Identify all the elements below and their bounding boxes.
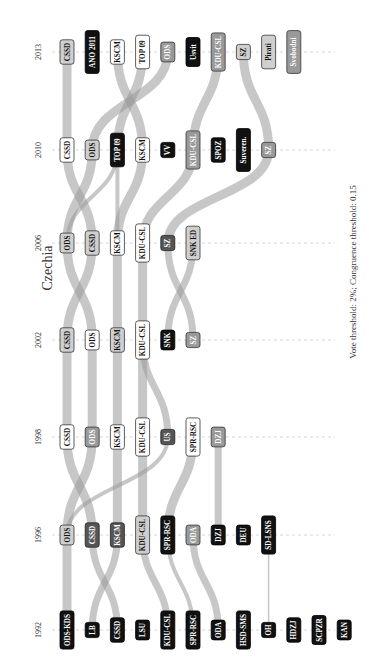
party-node-1992-hdzj: HDZJ	[287, 618, 301, 642]
svg-text:CSSD: CSSD	[64, 43, 72, 61]
party-node-2010-sz: SZ	[262, 142, 276, 157]
svg-text:KDU-CSL: KDU-CSL	[139, 421, 147, 454]
party-node-2006-kscm: KSCM	[110, 231, 124, 255]
svg-text:ODA: ODA	[215, 621, 223, 638]
party-node-1996-deu: DEU	[236, 525, 250, 545]
svg-text:KSCM: KSCM	[114, 329, 122, 351]
svg-text:KDU-CSL: KDU-CSL	[164, 614, 172, 647]
party-node-2006-ods: ODS	[60, 233, 74, 253]
year-label-2013: 2013	[34, 44, 43, 60]
party-node-2013-kscm: KSCM	[110, 40, 124, 64]
svg-text:SZ: SZ	[265, 145, 273, 154]
year-label-2010: 2010	[34, 142, 43, 158]
svg-text:ODS: ODS	[89, 143, 97, 158]
party-node-2010-spoz: SPOZ	[211, 138, 225, 162]
svg-text:KDU-CSL: KDU-CSL	[139, 227, 147, 260]
svg-text:SZ: SZ	[190, 335, 198, 344]
svg-text:2010: 2010	[34, 142, 43, 158]
year-label-2002: 2002	[34, 332, 43, 348]
svg-text:LSU: LSU	[139, 622, 147, 637]
party-node-2002-cssd: CSSD	[60, 328, 74, 352]
party-node-1992-oh: OH	[262, 622, 276, 637]
party-node-1998-dzj: DZJ	[211, 427, 225, 447]
party-node-1992-spr-rsc: SPR-RSC	[186, 611, 200, 649]
party-node-1998-kdu-csl: KDU-CSL	[136, 418, 150, 456]
svg-text:ODA: ODA	[190, 526, 198, 543]
party-node-2006-kdu-csl: KDU-CSL	[136, 224, 150, 262]
party-node-2010-ods: ODS	[85, 140, 99, 160]
party-node-2013-top-09: TOP 09	[136, 35, 150, 69]
svg-text:1996: 1996	[34, 527, 43, 543]
threshold-note: Vote threshold: 2%; Congruence threshold…	[348, 185, 358, 359]
party-node-2010-kscm: KSCM	[136, 138, 150, 162]
party-node-1992-cssd: CSSD	[110, 618, 124, 642]
svg-text:SZ: SZ	[240, 47, 248, 56]
svg-text:TOP 09: TOP 09	[139, 40, 147, 64]
party-node-2006-sz: SZ	[161, 235, 175, 250]
party-node-2013-cssd: CSSD	[60, 40, 74, 64]
party-node-2013-usvit: Usvit	[186, 38, 200, 67]
svg-text:SNK ED: SNK ED	[190, 230, 198, 257]
svg-text:KDU-CSL: KDU-CSL	[139, 519, 147, 552]
party-node-1992-scpzr: SCPZR	[312, 616, 326, 645]
svg-text:Svobodni: Svobodni	[290, 38, 298, 67]
svg-text:ODS-KDS: ODS-KDS	[64, 614, 72, 646]
svg-text:1998: 1998	[34, 429, 43, 445]
alluvial-chart: ODS-KDSLBCSSDLSUKDU-CSLSPR-RSCODAHSD-SMS…	[0, 0, 381, 662]
svg-text:ODS: ODS	[89, 430, 97, 445]
svg-text:CSSD: CSSD	[89, 526, 97, 544]
year-label-1992: 1992	[34, 622, 43, 638]
svg-text:SCPZR: SCPZR	[316, 617, 324, 641]
flow-2006-SZ-to-2010-SZ	[168, 150, 269, 243]
svg-text:SNK: SNK	[164, 332, 172, 347]
svg-text:ANO 2011: ANO 2011	[89, 36, 97, 68]
party-node-1992-oda: ODA	[211, 620, 225, 640]
party-node-1998-spr-rsc: SPR-RSC	[186, 418, 200, 456]
party-node-2002-sz: SZ	[186, 332, 200, 347]
svg-text:LB: LB	[89, 625, 97, 635]
party-node-2013-svobodni: Svobodni	[287, 31, 301, 74]
party-node-2013-ano-2011: ANO 2011	[85, 31, 99, 74]
svg-text:HDZJ: HDZJ	[290, 620, 298, 640]
svg-text:Suveren.: Suveren.	[240, 136, 248, 163]
party-node-1998-us: US	[161, 429, 175, 444]
party-node-2013-ods: ODS	[161, 42, 175, 62]
party-node-1996-dzj: DZJ	[211, 525, 225, 545]
year-label-1998: 1998	[34, 429, 43, 445]
party-node-1992-kan: KAN	[337, 620, 351, 640]
svg-text:DZJ: DZJ	[215, 528, 223, 542]
party-node-2013-pirati: Pirati	[262, 35, 276, 69]
svg-text:DZJ: DZJ	[215, 430, 223, 444]
svg-text:ODS: ODS	[64, 528, 72, 543]
party-node-1996-ods: ODS	[60, 525, 74, 545]
svg-text:SPOZ: SPOZ	[215, 140, 223, 159]
svg-text:KDU-CSL: KDU-CSL	[215, 36, 223, 69]
party-node-1992-lb: LB	[85, 622, 99, 637]
svg-text:HSD-SMS: HSD-SMS	[240, 614, 248, 646]
party-node-1996-sd-lsns: SD-LSNS	[262, 516, 276, 554]
svg-text:KSCM: KSCM	[114, 41, 122, 63]
svg-text:VV: VV	[164, 144, 172, 155]
party-node-1998-cssd: CSSD	[60, 425, 74, 449]
party-node-1998-ods: ODS	[85, 427, 99, 447]
svg-text:KSCM: KSCM	[114, 426, 122, 448]
svg-text:ODS: ODS	[89, 333, 97, 348]
party-node-2013-sz: SZ	[236, 44, 250, 59]
svg-text:KDU-CSL: KDU-CSL	[190, 134, 198, 167]
party-node-1998-kscm: KSCM	[110, 425, 124, 449]
svg-text:Usvit: Usvit	[190, 43, 198, 60]
party-node-2002-ods: ODS	[85, 330, 99, 350]
svg-text:SPR-RSC: SPR-RSC	[190, 615, 198, 645]
svg-text:OH: OH	[265, 624, 273, 636]
svg-text:SD-LSNS: SD-LSNS	[265, 520, 273, 550]
svg-text:KSCM: KSCM	[114, 232, 122, 254]
svg-text:SZ: SZ	[164, 238, 172, 247]
party-node-2010-top-09: TOP 09	[110, 133, 124, 167]
svg-text:1992: 1992	[34, 622, 43, 638]
svg-text:CSSD: CSSD	[89, 234, 97, 252]
party-node-1996-oda: ODA	[186, 525, 200, 545]
party-node-2002-snk: SNK	[161, 330, 175, 350]
svg-text:CSSD: CSSD	[114, 621, 122, 639]
svg-text:KSCM: KSCM	[114, 524, 122, 546]
svg-text:2013: 2013	[34, 44, 43, 60]
